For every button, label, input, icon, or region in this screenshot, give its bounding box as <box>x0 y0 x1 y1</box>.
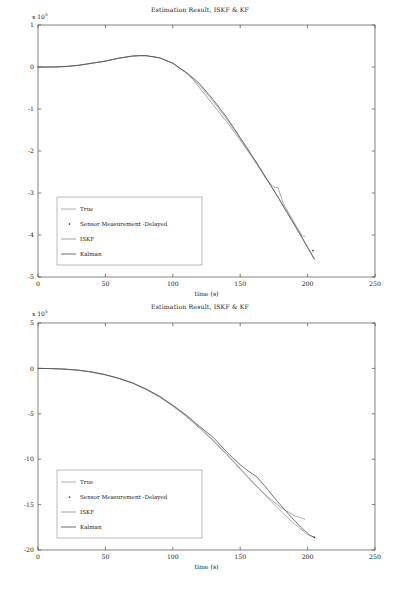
legend-label: ISKF <box>80 509 94 515</box>
legend-label: True <box>80 206 94 212</box>
x-tick-label: 50 <box>101 553 109 560</box>
y-tick-label: -3 <box>28 189 34 196</box>
y-tick-label: -20 <box>24 546 34 553</box>
y-tick-label: 5 <box>30 319 34 326</box>
y-tick-label: 0 <box>30 365 34 372</box>
y-tick-label: -5 <box>28 273 34 280</box>
y-tick-label: -4 <box>28 231 34 238</box>
x-axis-title: time (s) <box>195 290 219 297</box>
exponent-power-bottom: 5 <box>45 309 48 314</box>
legend-box <box>57 197 202 265</box>
x-tick-label: 50 <box>101 280 109 287</box>
legend-label: Kalman <box>80 251 102 257</box>
y-tick-label: -2 <box>28 147 34 154</box>
legend-dot-icon <box>69 223 71 225</box>
y-tick-label: -15 <box>24 501 34 508</box>
y-tick-label: -1 <box>28 105 34 112</box>
x-tick-label: 150 <box>234 280 246 287</box>
exponent-power-top: 5 <box>45 12 48 17</box>
chart-panel-bottom: Estimation Result, ISKF & KF x 105 05010… <box>0 298 400 597</box>
x-tick-label: 0 <box>36 280 40 287</box>
x-tick-label: 100 <box>167 280 179 287</box>
data-point-marker <box>312 250 314 252</box>
legend-label: Sensor Measurement -Delayed <box>80 221 168 228</box>
y-tick-label: 1 <box>30 21 34 28</box>
chart-title-top: Estimation Result, ISKF & KF <box>0 6 400 13</box>
chart-title-bottom: Estimation Result, ISKF & KF <box>0 303 400 310</box>
x-tick-label: 0 <box>36 553 40 560</box>
exponent-prefix-bottom: x 10 <box>32 310 45 317</box>
legend-label: Sensor Measurement -Delayed <box>80 494 168 501</box>
data-point-marker <box>313 536 315 538</box>
x-tick-label: 150 <box>234 553 246 560</box>
legend-label: Kalman <box>80 524 102 530</box>
x-tick-label: 100 <box>167 553 179 560</box>
legend-box <box>57 470 202 538</box>
legend-dot-icon <box>69 496 71 498</box>
x-tick-label: 250 <box>369 280 381 287</box>
chart-panel-top: Estimation Result, ISKF & KF x 105 05010… <box>0 0 400 298</box>
x-axis-title: time (s) <box>195 563 219 570</box>
y-tick-label: -5 <box>28 410 34 417</box>
x-tick-label: 200 <box>302 280 314 287</box>
y-exponent-label-top: x 105 <box>32 12 48 20</box>
x-tick-label: 200 <box>302 553 314 560</box>
legend-label: ISKF <box>80 236 94 242</box>
plot-area-bottom: 05010015020025050-5-10-15-20time (s)True… <box>0 298 400 597</box>
x-tick-label: 250 <box>369 553 381 560</box>
y-exponent-label-bottom: x 105 <box>32 309 48 317</box>
y-tick-label: -10 <box>24 455 34 462</box>
y-tick-label: 0 <box>30 63 34 70</box>
plot-area-top: 05010015020025010-1-2-3-4-5time (s)TrueS… <box>0 0 400 298</box>
legend-label: True <box>80 479 94 485</box>
exponent-prefix-top: x 10 <box>32 13 45 20</box>
